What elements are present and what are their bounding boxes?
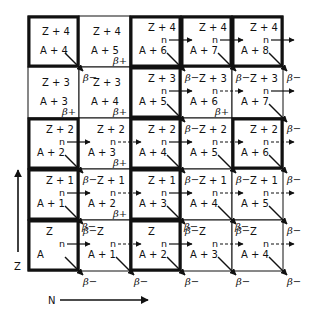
proton-label: Z + 3 [148,73,176,84]
n-axis: N [48,295,148,306]
mass-label: A + 6 [241,147,269,158]
proton-label: Z [97,226,104,237]
neutron-label: n [161,34,167,45]
mass-label: A + 3 [88,147,116,158]
z-axis-label: Z [14,261,21,272]
beta-plus-label: β+ [112,55,127,66]
mass-label: A + 7 [241,96,269,107]
mass-label: A + 5 [139,96,167,107]
neutron-label: n [161,85,167,96]
neutron-label: n [59,187,65,198]
proton-label: Z + 4 [93,26,121,37]
neutron-label: n [59,238,65,249]
proton-label: Z [46,226,53,237]
mass-label: A + 4 [190,198,218,209]
mass-label: A + 1 [37,198,65,209]
beta-minus-label: β− [286,123,301,134]
mass-label: A + 4 [40,45,68,56]
beta-minus-label: β− [235,276,250,287]
proton-label: Z + 4 [42,26,70,37]
neutron-label: n [212,187,218,198]
beta-plus-label: β+ [112,208,127,219]
mass-label: A + 3 [139,198,167,209]
mass-label: A + 5 [241,198,269,209]
mass-label: A + 7 [190,45,218,56]
neutron-label: n [263,34,269,45]
proton-label: Z + 2 [148,124,176,135]
mass-label: A + 5 [190,147,218,158]
mass-label: A + 3 [190,249,218,260]
proton-label: Z + 1 [97,175,125,186]
beta-minus-label: β− [81,221,96,232]
mass-label: A + 4 [241,249,269,260]
mass-label: A + 2 [139,249,167,260]
beta-minus-label: β− [82,72,97,83]
proton-label: Z + 3 [199,73,227,84]
beta-minus-label: β− [235,174,250,185]
proton-label: Z + 2 [46,124,74,135]
neutron-label: n [212,136,218,147]
beta-minus-label: β− [184,276,199,287]
mass-label: A [37,249,44,260]
mass-label: A + 1 [88,249,116,260]
neutron-label: n [110,187,116,198]
beta-minus-label: β− [133,276,148,287]
beta-minus-label: β− [184,123,199,134]
neutron-label: n [110,238,116,249]
mass-label: A + 6 [190,96,218,107]
proton-label: Z [199,226,206,237]
neutron-label: n [263,238,269,249]
proton-label: Z + 3 [250,73,278,84]
proton-label: Z + 2 [199,124,227,135]
proton-label: Z + 3 [42,77,70,88]
neutron-label: n [212,34,218,45]
proton-label: Z [148,226,155,237]
beta-minus-label: β− [286,276,301,287]
beta-minus-label: β− [184,174,199,185]
beta-minus-label: β− [82,174,97,185]
beta-minus-label: β− [286,72,301,83]
proton-label: Z + 4 [250,22,278,33]
beta-minus-label: β− [183,221,198,232]
neutron-label: n [212,85,218,96]
neutron-label: n [161,136,167,147]
mass-label: A + 4 [139,147,167,158]
beta-minus-label: β− [286,225,301,236]
mass-label: A + 2 [88,198,116,209]
beta-plus-label: β+ [112,157,127,168]
neutron-label: n [263,136,269,147]
z-axis: Z [14,170,21,272]
neutron-label: n [263,187,269,198]
proton-label: Z + 1 [250,175,278,186]
neutron-label: n [212,238,218,249]
proton-label: Z + 4 [148,22,176,33]
neutron-label: n [263,85,269,96]
proton-label: Z + 1 [46,175,74,186]
proton-label: Z + 1 [199,175,227,186]
proton-label: Z [250,226,257,237]
beta-plus-label: β+ [214,106,229,117]
proton-label: Z + 3 [93,77,121,88]
beta-minus-label: β− [184,72,199,83]
beta-minus-label: β− [286,174,301,185]
neutron-label: n [110,136,116,147]
beta-minus-label: β− [235,72,250,83]
n-axis-label: N [48,295,55,306]
neutron-label: n [161,187,167,198]
beta-plus-label: β+ [61,106,76,117]
proton-label: Z + 2 [250,124,278,135]
beta-plus-label: β+ [112,106,127,117]
proton-label: Z + 1 [148,175,176,186]
proton-label: Z + 2 [97,124,125,135]
mass-label: A + 6 [139,45,167,56]
beta-minus-label: β− [82,276,97,287]
mass-label: A + 8 [241,45,269,56]
proton-label: Z + 4 [199,22,227,33]
mass-label: A + 2 [37,147,65,158]
neutron-label: n [161,238,167,249]
neutron-label: n [59,136,65,147]
beta-minus-label: β− [234,221,249,232]
nuclide-chart-diagram: Z + 4A + 4Z + 4A + 5Z + 4A + 6nZ + 4A + … [0,0,312,318]
